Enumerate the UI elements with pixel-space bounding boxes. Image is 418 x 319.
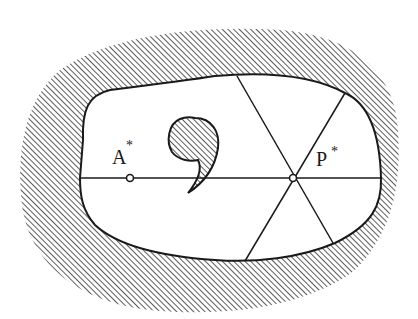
label-a: A (112, 146, 127, 168)
label-a-star: * (126, 138, 133, 153)
diagram: A * P * (0, 0, 418, 319)
label-p-star: * (331, 144, 338, 159)
point-p (290, 175, 297, 182)
label-p: P (316, 148, 327, 170)
point-a (127, 175, 134, 182)
